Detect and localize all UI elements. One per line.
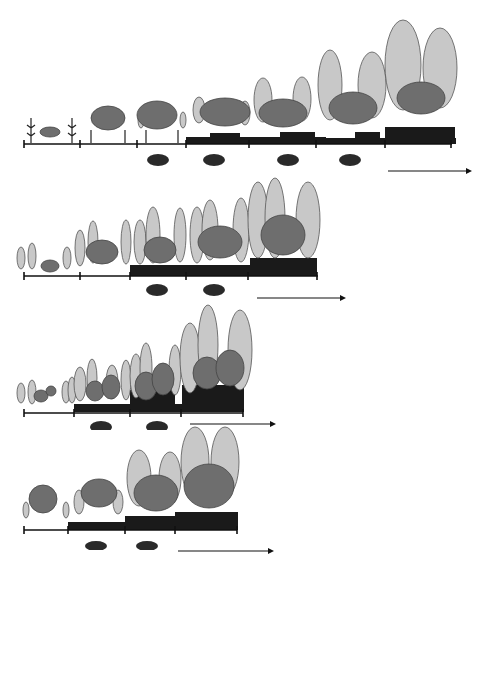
panel-e-illustration [0, 555, 484, 686]
panel-e [0, 555, 484, 686]
coffee-harvest-icon [85, 541, 158, 550]
panel-d-illustration [0, 420, 484, 550]
secondary-regrowth-icon [68, 512, 238, 530]
panel-d [0, 420, 484, 550]
